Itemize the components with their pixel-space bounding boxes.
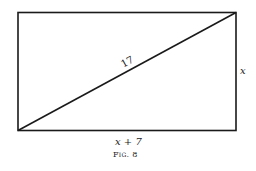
diagonal-line [18, 13, 236, 131]
figure-caption: Fig. 8 [113, 151, 138, 159]
bottom-side-label: x + 7 [115, 137, 142, 147]
right-side-label: x [240, 66, 246, 76]
